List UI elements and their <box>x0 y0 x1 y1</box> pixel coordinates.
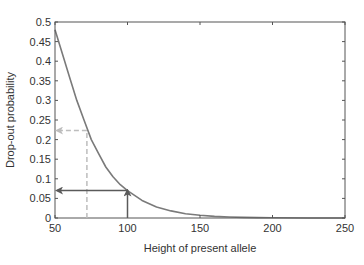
x-tick-label: 100 <box>118 222 136 234</box>
y-tick-label: 0.05 <box>30 192 51 204</box>
dropout-probability-chart: 5010015020025000.050.10.150.20.250.30.35… <box>0 0 364 265</box>
y-tick-label: 0.45 <box>30 36 51 48</box>
y-tick-label: 0.35 <box>30 75 51 87</box>
y-tick-label: 0.1 <box>36 173 51 185</box>
x-tick-label: 200 <box>263 222 281 234</box>
plot-area <box>55 30 345 218</box>
y-tick-label: 0.3 <box>36 94 51 106</box>
y-tick-label: 0.25 <box>30 114 51 126</box>
y-tick-label: 0.2 <box>36 134 51 146</box>
y-axis-label: Drop-out probability <box>4 72 16 168</box>
x-tick-label: 150 <box>191 222 209 234</box>
x-axis-label: Height of present allele <box>144 242 257 254</box>
dropout-curve <box>55 30 345 218</box>
y-tick-label: 0.4 <box>36 55 51 67</box>
y-tick-label: 0.5 <box>36 16 51 28</box>
y-tick-label: 0.15 <box>30 153 51 165</box>
axes-box <box>55 22 345 218</box>
y-tick-label: 0 <box>45 212 51 224</box>
x-tick-label: 250 <box>336 222 354 234</box>
axes: 5010015020025000.050.10.150.20.250.30.35… <box>30 16 355 234</box>
annotations <box>57 131 128 218</box>
